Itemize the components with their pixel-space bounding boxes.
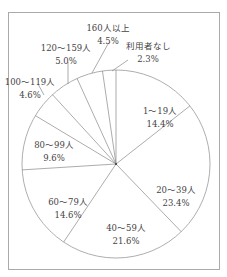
slice-percent: 2.3% (126, 53, 171, 66)
slice-category: 80〜99人 (34, 139, 74, 152)
slice-category: 60〜79人 (48, 196, 88, 209)
slice-percent: 21.6% (106, 235, 146, 248)
slice-percent: 14.4% (143, 118, 177, 131)
slice-label: 40〜59人21.6% (106, 222, 146, 248)
slice-label: 利用者なし2.3% (126, 40, 171, 66)
slice-category: 20〜39人 (156, 184, 196, 197)
slice-label: 160人以上4.5% (86, 22, 129, 48)
slice-category: 利用者なし (126, 40, 171, 53)
slice-category: 120〜159人 (41, 42, 91, 55)
slice-label: 80〜99人9.6% (34, 139, 74, 165)
slice-percent: 14.6% (48, 209, 88, 222)
slice-label: 60〜79人14.6% (48, 196, 88, 222)
slice-percent: 5.0% (41, 55, 91, 68)
slice-category: 160人以上 (86, 22, 129, 35)
slice-category: 40〜59人 (106, 222, 146, 235)
slice-label: 100〜119人4.6% (5, 76, 55, 102)
slice-category: 100〜119人 (5, 76, 55, 89)
slice-label: 20〜39人23.4% (156, 184, 196, 210)
slice-percent: 4.6% (5, 89, 55, 102)
slice-percent: 4.5% (86, 35, 129, 48)
slice-label: 1〜19人14.4% (143, 105, 177, 131)
slice-percent: 23.4% (156, 197, 196, 210)
slice-percent: 9.6% (34, 152, 74, 165)
slice-category: 1〜19人 (143, 105, 177, 118)
slice-label: 120〜159人5.0% (41, 42, 91, 68)
leader-line (92, 44, 108, 73)
